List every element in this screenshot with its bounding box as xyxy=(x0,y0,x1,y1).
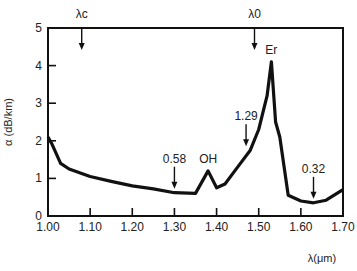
y-tick-label: 5 xyxy=(35,21,42,35)
peak-label: OH xyxy=(199,152,217,166)
attenuation-curve xyxy=(48,62,343,203)
wavelength-marker-label: λc xyxy=(76,7,88,21)
attenuation-chart: 1.001.101.201.301.401.501.601.70012345 λ… xyxy=(0,0,357,271)
x-tick-label: 1.50 xyxy=(247,220,271,234)
x-tick-label: 1.30 xyxy=(163,220,187,234)
loss-value-label: 0.58 xyxy=(163,152,187,166)
y-tick-label: 2 xyxy=(35,134,42,148)
y-axis-label: α (dB/km) xyxy=(2,98,14,146)
x-axis-label: λ(μm) xyxy=(308,252,336,264)
y-tick-label: 0 xyxy=(35,209,42,223)
peak-label: Er xyxy=(265,43,277,57)
x-tick-label: 1.10 xyxy=(78,220,102,234)
loss-value-label: 1.29 xyxy=(234,109,258,123)
plot-frame xyxy=(48,28,343,216)
x-tick-label: 1.60 xyxy=(289,220,313,234)
x-tick-label: 1.20 xyxy=(121,220,145,234)
y-tick-label: 3 xyxy=(35,96,42,110)
y-tick-label: 1 xyxy=(35,171,42,185)
x-tick-label: 1.70 xyxy=(331,220,355,234)
x-tick-label: 1.40 xyxy=(205,220,229,234)
axes xyxy=(48,28,343,216)
loss-value-label: 0.32 xyxy=(302,162,326,176)
annotations: λcλ0ErOH0.581.290.32 xyxy=(76,7,326,199)
wavelength-marker-label: λ0 xyxy=(248,7,261,21)
y-tick-label: 4 xyxy=(35,59,42,73)
